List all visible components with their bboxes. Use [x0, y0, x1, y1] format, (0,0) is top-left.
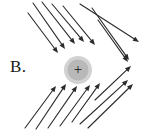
charge-sign-plus: +	[74, 61, 82, 77]
incoming-field-line-arrowhead-0	[60, 43, 65, 49]
incoming-field-line-shaft-7	[48, 90, 74, 128]
incoming-field-line-shaft-4	[28, 13, 55, 49]
incoming-field-line-arrowhead-5	[50, 86, 56, 92]
incoming-field-line-arrowhead-7	[72, 86, 77, 92]
incoming-field-line-shaft-1	[42, 2, 72, 40]
point-charge: +	[64, 56, 92, 84]
panel-label-b: B.	[10, 58, 27, 75]
outgoing-field-line-arrowhead-0	[133, 37, 139, 42]
incoming-field-line-arrowhead-6	[61, 84, 66, 90]
incoming-field-line-arrowhead-8	[84, 85, 90, 91]
incoming-field-line-arrowhead-9	[94, 83, 100, 89]
outgoing-field-line-shaft-1	[92, 8, 126, 56]
field-diagram-figure: + B.	[0, 0, 155, 132]
outgoing-field-line-shaft-5	[88, 87, 129, 128]
incoming-field-line-shaft-3	[63, 6, 92, 41]
outgoing-field-line-shaft-2	[98, 20, 125, 58]
incoming-field-line-arrowhead-4	[52, 47, 58, 53]
